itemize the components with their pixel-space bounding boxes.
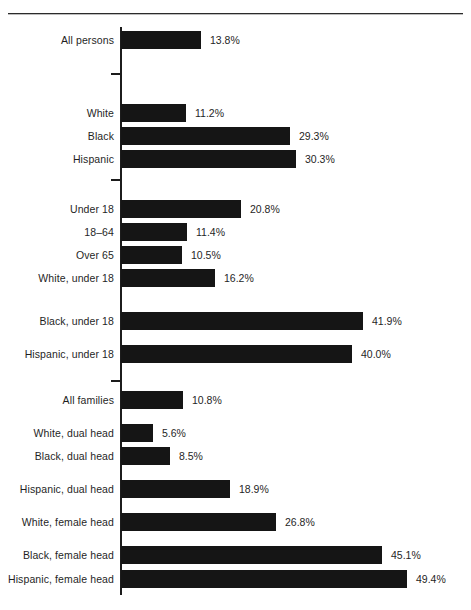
bar-category-label: Hispanic, dual head <box>20 479 114 499</box>
bar-row: White, dual head5.6% <box>0 423 471 443</box>
bar-value-label: 13.8% <box>210 30 240 50</box>
bar-row: All persons13.8% <box>0 30 471 50</box>
bar-category-label: Hispanic <box>73 149 114 169</box>
bar <box>121 127 290 145</box>
bar-value-label: 5.6% <box>162 423 186 443</box>
bar <box>121 269 215 287</box>
bar-value-label: 11.2% <box>195 103 224 123</box>
bar-category-label: Hispanic, female head <box>8 569 114 589</box>
bar-category-label: Black, under 18 <box>40 311 114 331</box>
bar-row: All families10.8% <box>0 390 471 410</box>
bar-value-label: 20.8% <box>250 199 280 219</box>
bar <box>121 447 170 465</box>
bar-category-label: White, female head <box>22 512 114 532</box>
bar-row: White, female head26.8% <box>0 512 471 532</box>
bar-row: Over 6510.5% <box>0 245 471 265</box>
bar <box>121 513 276 531</box>
bar-row: Black29.3% <box>0 126 471 146</box>
bar-value-label: 29.3% <box>299 126 329 146</box>
bar <box>121 31 201 49</box>
bar-value-label: 41.9% <box>372 311 402 331</box>
bar <box>121 424 153 442</box>
bar-category-label: Black, female head <box>23 545 114 565</box>
bar-row: White, under 1816.2% <box>0 268 471 288</box>
bar-category-label: Under 18 <box>70 199 114 219</box>
bar-category-label: Black <box>88 126 114 146</box>
axis-tick-3 <box>111 380 120 382</box>
bar-value-label: 18.9% <box>239 479 269 499</box>
poverty-rate-bar-chart: All persons13.8%White11.2%Black29.3%Hisp… <box>0 0 471 610</box>
bar <box>121 546 382 564</box>
bar-value-label: 11.4% <box>196 222 225 242</box>
bar-category-label: 18–64 <box>84 222 114 242</box>
bar-value-label: 10.5% <box>191 245 221 265</box>
bar <box>121 480 230 498</box>
bar-category-label: White, under 18 <box>38 268 114 288</box>
top-horizontal-rule <box>8 13 463 14</box>
bar-row: Black, female head45.1% <box>0 545 471 565</box>
bar-category-label: All persons <box>61 30 114 50</box>
bar-row: Hispanic30.3% <box>0 149 471 169</box>
bar <box>121 150 296 168</box>
bar <box>121 200 241 218</box>
bar-value-label: 40.0% <box>361 344 391 364</box>
bar-category-label: Hispanic, under 18 <box>25 344 114 364</box>
bar-row: Under 1820.8% <box>0 199 471 219</box>
bar-row: Hispanic, female head49.4% <box>0 569 471 589</box>
bar-row: 18–6411.4% <box>0 222 471 242</box>
bar-row: White11.2% <box>0 103 471 123</box>
bar-category-label: Black, dual head <box>35 446 114 466</box>
bar <box>121 246 182 264</box>
bar <box>121 345 352 363</box>
bar <box>121 570 407 588</box>
bar-value-label: 16.2% <box>224 268 254 288</box>
bar-row: Black, under 1841.9% <box>0 311 471 331</box>
bar <box>121 312 363 330</box>
bar-value-label: 26.8% <box>285 512 315 532</box>
bar-value-label: 8.5% <box>179 446 203 466</box>
bar-category-label: All families <box>63 390 114 410</box>
bar-row: Hispanic, dual head18.9% <box>0 479 471 499</box>
bar <box>121 223 187 241</box>
bar-value-label: 30.3% <box>305 149 335 169</box>
bar-row: Hispanic, under 1840.0% <box>0 344 471 364</box>
axis-tick-1 <box>111 73 120 75</box>
bar-category-label: White <box>87 103 114 123</box>
bar-category-label: White, dual head <box>34 423 114 443</box>
bar-value-label: 45.1% <box>391 545 421 565</box>
bar-category-label: Over 65 <box>76 245 114 265</box>
bar-value-label: 49.4% <box>416 569 446 589</box>
bar-row: Black, dual head8.5% <box>0 446 471 466</box>
bar-value-label: 10.8% <box>192 390 222 410</box>
axis-tick-2 <box>111 179 120 181</box>
bar <box>121 391 183 409</box>
bar <box>121 104 186 122</box>
